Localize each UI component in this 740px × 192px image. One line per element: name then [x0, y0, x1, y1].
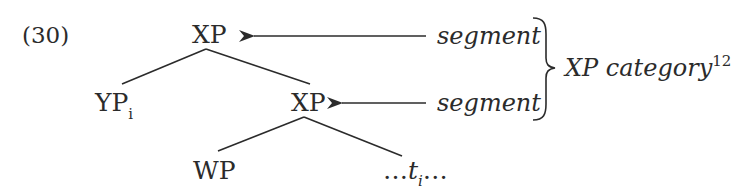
middle-segment-label: segment — [437, 91, 541, 115]
syntax-tree-diagram: (30) XP YPi XP WP …ti… segment segment X… — [0, 0, 740, 192]
example-number: (30) — [22, 24, 69, 47]
xp-category-label: XP category12 — [565, 56, 731, 80]
leaf-node-trace: …ti… — [383, 158, 448, 183]
branch-xp-to-trace — [304, 117, 402, 156]
branch-root-to-xp — [206, 49, 310, 84]
xp-category-text: XP category — [565, 54, 712, 82]
footnote-marker: 12 — [712, 52, 731, 70]
trace-index-subscript: i — [418, 172, 423, 190]
leaf-node-wp: WP — [193, 158, 236, 183]
root-node-xp: XP — [192, 22, 227, 47]
branch-root-to-yp — [122, 49, 206, 84]
trace-label: t — [408, 156, 418, 185]
left-node-yp: YPi — [95, 90, 133, 115]
branch-xp-to-wp — [218, 117, 304, 151]
yp-index-subscript: i — [128, 105, 133, 123]
right-node-xp: XP — [291, 90, 326, 115]
trace-prefix: … — [383, 156, 408, 185]
yp-label: YP — [95, 88, 128, 117]
trace-suffix: … — [423, 156, 448, 185]
top-segment-label: segment — [437, 24, 541, 48]
